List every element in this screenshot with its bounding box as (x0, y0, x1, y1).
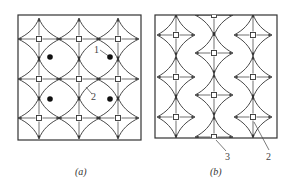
leader-b-2 (254, 122, 269, 150)
square-marker (212, 93, 217, 98)
caption-b: (b) (210, 166, 222, 178)
label-a-2: 2 (91, 91, 96, 102)
square-marker (116, 116, 121, 121)
grain-cell (18, 58, 60, 100)
square-marker (251, 115, 256, 120)
grain-cell (234, 14, 272, 56)
grain-cell (97, 58, 139, 100)
grain-cell (157, 14, 195, 56)
grain-cell (234, 96, 272, 138)
grain-cell (58, 97, 100, 139)
square-marker (37, 37, 42, 42)
panel-a (18, 15, 141, 140)
square-marker (251, 75, 256, 80)
grain-cell (234, 56, 272, 98)
square-marker (174, 115, 179, 120)
label-b-3: 3 (225, 151, 230, 162)
filled-dot (47, 96, 53, 102)
square-marker (212, 135, 217, 140)
grain-cell (18, 97, 60, 139)
square-marker (116, 77, 121, 82)
square-marker (174, 75, 179, 80)
leader-b-3 (216, 140, 226, 151)
filled-dot (107, 96, 113, 102)
square-marker (37, 116, 42, 121)
grain-cell (195, 32, 233, 74)
grain-cell (18, 18, 60, 60)
panel-b-cells (157, 0, 272, 158)
panel-a-cells (18, 18, 139, 139)
panel-b (155, 0, 277, 158)
grain-cell (97, 18, 139, 60)
filled-dot (107, 54, 113, 60)
label-b-2: 2 (266, 151, 271, 162)
square-marker (77, 37, 82, 42)
grain-cell (97, 97, 139, 139)
square-marker (174, 33, 179, 38)
grain-cell (195, 74, 233, 116)
grain-cell (157, 96, 195, 138)
square-marker (77, 77, 82, 82)
square-marker (212, 13, 217, 18)
square-marker (37, 77, 42, 82)
square-marker (77, 116, 82, 121)
square-marker (251, 33, 256, 38)
square-marker (116, 37, 121, 42)
caption-a: (a) (75, 166, 87, 178)
label-a-1: 1 (94, 44, 99, 55)
diagram-canvas: 1 2 3 2 (a) (b) (0, 0, 291, 190)
filled-dot (47, 54, 53, 60)
square-marker (212, 51, 217, 56)
grain-cell (157, 56, 195, 98)
